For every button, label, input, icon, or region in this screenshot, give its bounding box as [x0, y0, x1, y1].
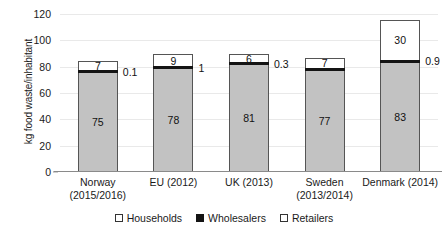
y-axis-tick-label: 100	[33, 34, 51, 46]
legend-item-label: Households	[127, 212, 182, 224]
legend-swatch-open-icon	[280, 214, 288, 222]
bar-value-label-households: 77	[319, 116, 331, 127]
y-axis-title: kg food waste/inhabitant	[23, 12, 34, 172]
bar-value-label-households: 75	[92, 117, 104, 128]
y-axis-tick-label: 20	[39, 140, 51, 152]
bar-segment-retailers[interactable]: 9	[153, 54, 193, 66]
x-axis-category-label: Denmark (2014)	[348, 176, 448, 189]
bar-group[interactable]: 300.983	[380, 20, 420, 172]
bar-segment-retailers[interactable]: 30	[380, 20, 420, 60]
bar-segment-households[interactable]: 81	[229, 65, 269, 172]
bar-segment-households[interactable]: 83	[380, 63, 420, 172]
bar-value-label-wholesalers: 0.9	[425, 55, 440, 67]
x-axis-category-label-line: (2013/2014)	[273, 189, 377, 202]
bar-group[interactable]: 777	[305, 58, 345, 172]
x-axis-category-label-line: (2015/2016)	[46, 189, 150, 202]
legend-item-label: Retailers	[292, 212, 333, 224]
x-axis-category-label-line: Denmark (2014)	[348, 176, 448, 189]
plot-area: 020406080100120 70.175917860.381777300.9…	[60, 14, 438, 172]
legend-item[interactable]: Retailers	[280, 212, 333, 224]
bar-group[interactable]: 60.381	[229, 54, 269, 172]
y-axis-tick-label: 40	[39, 113, 51, 125]
legend-item[interactable]: Households	[115, 212, 182, 224]
bar-value-label-households: 81	[243, 113, 255, 124]
bar-value-label-wholesalers: 0.3	[274, 58, 289, 70]
chart-legend: HouseholdsWholesalersRetailers	[0, 212, 448, 224]
gridline	[60, 14, 438, 15]
legend-swatch-open-icon	[115, 214, 123, 222]
y-axis-tick-label: 60	[39, 87, 51, 99]
bar-segment-retailers[interactable]: 6	[229, 54, 269, 62]
bar-segment-retailers[interactable]: 7	[78, 61, 118, 70]
y-axis-tick-label: 80	[39, 61, 51, 73]
bar-segment-households[interactable]: 78	[153, 69, 193, 172]
bar-segment-retailers[interactable]: 7	[305, 58, 345, 67]
y-axis-tick-label: 120	[33, 8, 51, 20]
bar-segment-households[interactable]: 75	[78, 73, 118, 172]
bar-value-label-retailers: 30	[394, 35, 406, 46]
bar-value-label-wholesalers: 1	[198, 62, 204, 74]
chart-container: kg food waste/inhabitant 020406080100120…	[0, 0, 448, 237]
x-axis-line	[54, 171, 442, 173]
legend-item-label: Wholesalers	[208, 212, 266, 224]
legend-swatch-filled-icon	[196, 214, 204, 222]
bar-value-label-wholesalers: 0.1	[123, 66, 138, 78]
bar-value-label-retailers: 9	[170, 56, 176, 67]
bar-segment-households[interactable]: 77	[305, 71, 345, 172]
bar-value-label-households: 83	[394, 112, 406, 123]
legend-item[interactable]: Wholesalers	[196, 212, 266, 224]
bar-group[interactable]: 9178	[153, 54, 193, 172]
bar-group[interactable]: 70.175	[78, 61, 118, 172]
bar-value-label-households: 78	[168, 115, 180, 126]
